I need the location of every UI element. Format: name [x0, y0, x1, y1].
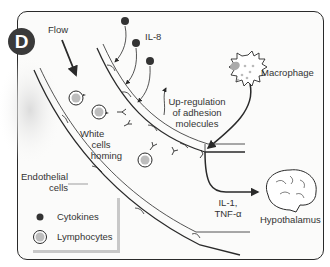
white-cells-homing-label: White cells homing [80, 128, 122, 161]
il8-label: IL-8 [145, 31, 161, 42]
il1-line: IL-1, [208, 197, 248, 208]
legend [33, 198, 120, 253]
brain-icon [266, 170, 316, 212]
endothelial-line: cells [20, 182, 68, 193]
shadow [0, 55, 62, 165]
lymphocyte [138, 153, 152, 167]
white-line: White [80, 128, 122, 139]
upregulation-line: of adhesion [164, 107, 230, 118]
il1-tnf-arrow [205, 152, 258, 192]
flow-arrow [62, 40, 76, 75]
white-line: cells [80, 139, 122, 150]
upregulation-label: Up-regulation of adhesion molecules [164, 96, 230, 129]
lymphocyte [92, 105, 109, 119]
endothelial-cells-label: Endothelial cells [20, 171, 68, 193]
macrophage-label: Macrophage [261, 67, 314, 78]
il1-tnf-label: IL-1, TNF-α [208, 197, 248, 219]
flow-label: Flow [48, 24, 68, 35]
legend-lymphocytes-label: Lymphocytes [57, 231, 113, 242]
lymphocyte [69, 91, 86, 105]
upregulation-line: Up-regulation [164, 96, 230, 107]
legend-cytokines-label: Cytokines [57, 211, 99, 222]
tnf-line: TNF-α [208, 208, 248, 219]
hypothalamus-label: Hypothalamus [260, 214, 321, 225]
upregulation-line: molecules [164, 118, 230, 129]
endothelial-line: Endothelial [20, 171, 68, 182]
white-line: homing [80, 150, 122, 161]
panel-badge: D [8, 28, 35, 55]
